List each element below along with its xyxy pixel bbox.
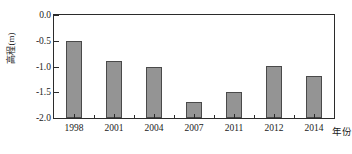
- y-axis-title: 高程(m): [6, 16, 16, 80]
- y-tick-label-1: -0.5: [36, 35, 51, 48]
- x-tick-2004: [154, 114, 155, 118]
- x-tick-label-2011: 2011: [225, 122, 244, 134]
- x-tick-minor-3: [174, 115, 175, 118]
- x-tick-1998: [74, 114, 75, 118]
- bar-1998: [66, 41, 83, 118]
- x-tick-minor-4: [214, 115, 215, 118]
- x-tick-label-2001: 2001: [105, 122, 124, 134]
- y-tick-4: -2.0: [54, 118, 59, 119]
- y-tick-1: -0.5: [54, 41, 59, 42]
- bar-2001: [106, 61, 123, 118]
- x-tick-minor-5: [254, 115, 255, 118]
- y-tick-label-2: -1.0: [36, 61, 51, 74]
- y-tick-label-4: -2.0: [36, 112, 51, 125]
- bar-2014: [306, 76, 323, 118]
- plot-area: 0.0 -0.5 -1.0 -1.5 -2.0 1998200120042007…: [53, 14, 335, 119]
- x-tick-2011: [234, 114, 235, 118]
- y-tick-3: -1.5: [54, 92, 59, 93]
- x-tick-label-2012: 2012: [265, 122, 284, 134]
- x-tick-label-2014: 2014: [305, 122, 324, 134]
- y-tick-0: 0.0: [54, 15, 59, 16]
- x-tick-minor-6: [294, 115, 295, 118]
- y-tick-label-3: -1.5: [36, 86, 51, 99]
- x-axis-title: 年份: [332, 126, 352, 138]
- x-tick-2007: [194, 114, 195, 118]
- x-tick-label-2004: 2004: [145, 122, 164, 134]
- y-tick-2: -1.0: [54, 67, 59, 68]
- x-tick-minor-1: [94, 115, 95, 118]
- bar-2012: [266, 66, 283, 118]
- x-tick-minor-2: [134, 115, 135, 118]
- x-tick-label-1998: 1998: [65, 122, 84, 134]
- x-tick-2014: [314, 114, 315, 118]
- x-tick-2012: [274, 114, 275, 118]
- y-tick-label-0: 0.0: [39, 9, 51, 22]
- x-tick-2001: [114, 114, 115, 118]
- x-tick-label-2007: 2007: [185, 122, 204, 134]
- bar-2004: [146, 67, 163, 119]
